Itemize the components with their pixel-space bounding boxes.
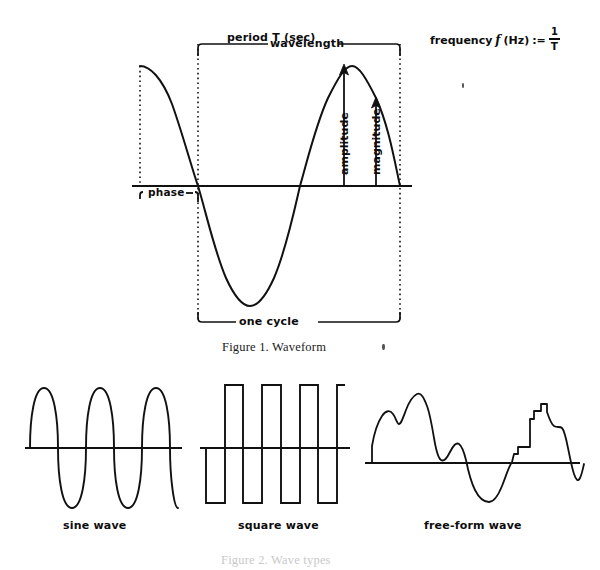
wavelength-bracket-right [338,44,400,56]
figure2-caption: Figure 2. Wave types [221,553,331,568]
square-wave-group [200,385,350,503]
square-wave-label: square wave [238,520,319,531]
sine-wave-group [25,388,182,508]
square-wave-curve [206,385,345,503]
figure2-wave-types-diagram [0,370,600,570]
phase-label: phase [148,187,184,198]
magnitude-label: magnitude [371,108,382,175]
figure1-caption: Figure 1. Waveform [222,340,326,355]
wavelength-bracket-left [198,44,268,56]
scan-speck [462,83,464,88]
frequency-unit: (Hz) [504,34,530,47]
frequency-formula-prefix: frequency [430,34,492,47]
sine-wave-label: sine wave [63,520,126,531]
figure1-waveform-diagram [0,0,600,370]
fraction-denominator: T [549,40,560,52]
phase-bracket-right [195,192,198,202]
free-form-wave-curve [372,394,584,502]
frequency-formula: frequency f (Hz) := 1 T [430,28,560,52]
scan-speck [382,344,385,350]
fraction-numerator: 1 [549,27,560,38]
wavelength-label: wavelength [270,38,344,49]
one-cycle-bracket-right [318,312,400,322]
frequency-symbol: f [495,33,500,47]
free-form-wave-group [365,394,584,502]
assignment-operator: := [532,34,546,47]
one-over-T-fraction: 1 T [549,27,560,51]
one-cycle-label: one cycle [239,316,299,327]
one-cycle-bracket-left [198,312,236,322]
phase-bracket-left [140,192,143,199]
amplitude-label: amplitude [339,112,350,175]
free-form-wave-label: free-form wave [424,520,522,531]
